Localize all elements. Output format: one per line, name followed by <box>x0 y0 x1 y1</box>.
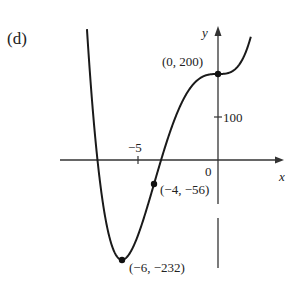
function-plot <box>0 0 296 292</box>
point-0-200 <box>215 71 221 77</box>
panel-label: (d) <box>7 30 27 47</box>
point-label-neg6-neg232: (−6, −232) <box>129 261 185 274</box>
x-axis-label: x <box>279 170 285 183</box>
y-tick-label-100: 100 <box>223 111 243 124</box>
x-tick-label-0: 0 <box>205 165 212 178</box>
point-label-0-200: (0, 200) <box>162 55 203 68</box>
point-neg6-neg232 <box>119 257 125 263</box>
point-label-neg4-neg56: (−4, −56) <box>160 183 209 196</box>
x-axis-arrow-icon <box>275 157 284 164</box>
point-neg4-neg56 <box>151 181 157 187</box>
x-tick-label-neg5: −5 <box>128 141 142 154</box>
y-axis-arrow-icon <box>215 26 222 36</box>
y-axis-label: y <box>202 26 208 39</box>
